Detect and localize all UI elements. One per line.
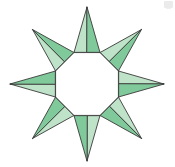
- octagonal-hole: [56, 53, 119, 116]
- faint-gray-mark-tail-icon: [166, 8, 171, 9]
- polyhedron-diagram: [0, 0, 175, 167]
- faint-gray-mark-icon: [164, 1, 173, 8]
- polyhedron-figure: [0, 0, 175, 167]
